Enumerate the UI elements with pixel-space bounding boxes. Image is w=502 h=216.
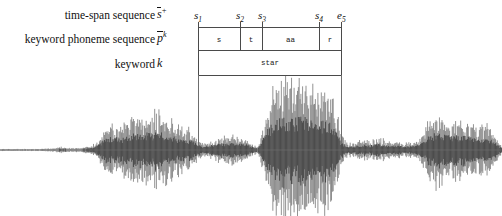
table-divider-right xyxy=(341,27,342,75)
row-symbol-time-span-sequence: s+ xyxy=(157,8,191,20)
table-divider-left xyxy=(198,27,199,75)
row-label-keyword-phoneme-sequence: keyword phoneme sequence xyxy=(0,33,155,45)
table-rule-top xyxy=(198,27,342,28)
symbol-base-s: s xyxy=(157,8,162,20)
phoneme-cell-r: r xyxy=(319,36,341,44)
phoneme-cell-s: s xyxy=(198,36,240,44)
symbol-base-k: k xyxy=(157,56,162,70)
row-label-keyword: keyword xyxy=(0,58,155,70)
row-symbol-keyword-phoneme-sequence: pk xyxy=(157,32,191,44)
keyword-cell-star: star xyxy=(198,59,342,67)
waveform-bars xyxy=(0,76,502,216)
row-label-time-span-sequence: time-span sequence xyxy=(0,9,155,21)
phoneme-cell-t: t xyxy=(240,36,262,44)
tick-label-s4: s4 xyxy=(315,10,323,21)
symbol-base-p: p xyxy=(157,32,163,44)
row-symbol-keyword: k xyxy=(157,57,191,69)
symbol-sup-plus: + xyxy=(162,5,167,15)
tick-label-e5: e5 xyxy=(337,10,346,21)
speech-waveform xyxy=(0,75,502,216)
symbol-sup-k: k xyxy=(163,30,167,39)
phoneme-cell-aa: aa xyxy=(262,36,319,44)
table-rule-middle xyxy=(198,50,342,51)
tick-label-s3: s3 xyxy=(258,10,266,21)
figure-root: time-span sequence s+ keyword phoneme se… xyxy=(0,0,502,216)
tick-label-s1: s1 xyxy=(194,10,202,21)
tick-label-s2: s2 xyxy=(236,10,244,21)
